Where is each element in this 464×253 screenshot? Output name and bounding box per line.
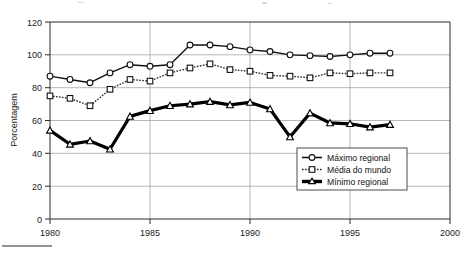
chart-figure: 120 100 80 60 40 20 0 1980 1985 1990 199… [0, 0, 464, 253]
data-series-layer [47, 42, 394, 152]
data-point-marker [87, 80, 93, 86]
chart-legend: Máximo regional Média do mundo Mínimo re… [297, 148, 407, 190]
data-point-marker [367, 70, 373, 76]
data-point-marker [127, 77, 133, 83]
data-point-marker [387, 50, 393, 56]
y-axis-title: Porcentagem [9, 93, 19, 147]
data-point-marker [287, 73, 293, 79]
line-chart-svg: 120 100 80 60 40 20 0 1980 1985 1990 199… [0, 0, 464, 253]
series-line [50, 64, 390, 106]
data-point-marker [347, 71, 353, 77]
y-tick-label: 60 [32, 116, 42, 126]
x-tick-label: 1990 [240, 228, 260, 238]
y-axis-ticks [45, 22, 50, 219]
data-point-marker [47, 127, 54, 133]
x-tick-label: 2000 [440, 228, 460, 238]
series-line [50, 102, 390, 150]
data-point-marker [67, 96, 73, 102]
series-m-ximo-regional [47, 42, 393, 86]
y-tick-label: 100 [27, 50, 42, 60]
y-tick-label: 120 [27, 18, 42, 28]
data-point-marker [307, 53, 313, 59]
y-tick-label: 80 [32, 83, 42, 93]
data-point-marker [207, 61, 213, 67]
y-tick-label: 20 [32, 182, 42, 192]
data-point-marker [267, 73, 273, 79]
data-point-marker [47, 73, 53, 79]
scan-artifacts [78, 2, 332, 4]
data-point-marker [187, 42, 193, 48]
x-axis-ticks [50, 219, 450, 224]
data-point-marker [107, 87, 113, 93]
legend-label: Média do mundo [327, 165, 391, 175]
series-m-nimo-regional [47, 98, 394, 152]
data-point-marker [327, 54, 333, 60]
data-point-marker [147, 63, 153, 69]
data-point-marker [367, 50, 373, 56]
data-point-marker [287, 52, 293, 58]
y-tick-label: 0 [37, 215, 42, 225]
data-point-marker [67, 77, 73, 83]
legend-label: Máximo regional [327, 153, 390, 163]
x-axis-tick-labels: 1980 1985 1990 1995 2000 [40, 228, 460, 238]
series-m-dia-do-mundo [47, 61, 393, 108]
data-point-marker [247, 47, 253, 53]
data-point-marker [227, 67, 233, 73]
data-point-marker [227, 44, 233, 50]
y-axis-tick-labels: 120 100 80 60 40 20 0 [27, 18, 42, 225]
data-point-marker [107, 70, 113, 76]
data-point-marker [167, 62, 173, 68]
x-tick-label: 1995 [340, 228, 360, 238]
data-point-marker [207, 42, 213, 48]
series-line [50, 45, 390, 83]
x-tick-label: 1980 [40, 228, 60, 238]
data-point-marker [247, 68, 253, 74]
x-tick-label: 1985 [140, 228, 160, 238]
data-point-marker [127, 62, 133, 68]
data-point-marker [147, 78, 153, 84]
data-point-marker [47, 93, 53, 99]
data-point-marker [267, 49, 273, 55]
data-point-marker [167, 70, 173, 76]
data-point-marker [307, 75, 313, 81]
data-point-marker [87, 103, 93, 109]
data-point-marker [327, 70, 333, 76]
legend-label: Mínimo regional [327, 177, 388, 187]
data-point-marker [187, 65, 193, 71]
y-tick-label: 40 [32, 149, 42, 159]
data-point-marker [347, 52, 353, 58]
data-point-marker [387, 70, 393, 76]
